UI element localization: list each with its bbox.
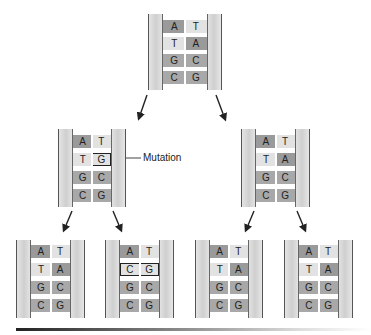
arrow-parent-right bbox=[216, 95, 225, 119]
base-pair: GC bbox=[210, 281, 248, 294]
backbone-left bbox=[58, 129, 73, 207]
arrow-g1l-right bbox=[113, 211, 121, 230]
base-pair: CG bbox=[210, 299, 248, 312]
base-pair: AT bbox=[256, 135, 295, 148]
arrow-g1l-left bbox=[64, 211, 72, 230]
dna-gen2-2: AT CG GC CG bbox=[105, 240, 174, 318]
arrow-g1r-right bbox=[297, 211, 305, 230]
dna-gen2-3: AT TA GC CG bbox=[195, 240, 263, 318]
base-pair: GC bbox=[256, 171, 295, 184]
base-pair: AT bbox=[31, 245, 70, 258]
arrow-g1r-left bbox=[246, 211, 254, 230]
base-pair: GC bbox=[163, 54, 207, 67]
base-pair: GC bbox=[73, 171, 111, 184]
base-pair: AT bbox=[299, 245, 338, 258]
dna-gen1-right: AT TA GC CG bbox=[241, 129, 310, 207]
arrow-parent-left bbox=[139, 95, 147, 118]
base-pair: CG bbox=[299, 299, 338, 312]
backbone-right bbox=[295, 129, 310, 207]
base-pair: GC bbox=[31, 281, 70, 294]
backbone-right bbox=[111, 129, 126, 207]
base-pair: CG bbox=[31, 299, 70, 312]
base-pair: AT bbox=[73, 135, 111, 148]
base-pair: CG bbox=[163, 71, 207, 84]
base-pair: CG bbox=[256, 189, 295, 202]
base-pair: GC bbox=[120, 281, 159, 294]
backbone-left bbox=[241, 129, 256, 207]
dna-parent: AT TA GC CG bbox=[148, 14, 222, 90]
base-pair: AT bbox=[120, 245, 159, 258]
base-pair: AT bbox=[210, 245, 248, 258]
mutation-label: Mutation bbox=[143, 152, 181, 163]
base-pair: CG bbox=[73, 189, 111, 202]
dna-gen2-1: AT TA GC CG bbox=[16, 240, 85, 318]
base-pair: TA bbox=[210, 263, 248, 276]
bottom-divider bbox=[16, 328, 371, 331]
base-pair: TA bbox=[299, 263, 338, 276]
base-pair: CG bbox=[120, 299, 159, 312]
backbone-left bbox=[148, 14, 163, 90]
base-pair: TA bbox=[31, 263, 70, 276]
base-pair-mutated: CG bbox=[120, 263, 159, 276]
base-pair: GC bbox=[299, 281, 338, 294]
dna-gen1-left: AT TG GC CG bbox=[58, 129, 126, 207]
dna-gen2-4: AT TA GC CG bbox=[284, 240, 353, 318]
base-pair: TA bbox=[163, 37, 207, 50]
base-pair: TA bbox=[256, 153, 295, 166]
backbone-right bbox=[207, 14, 222, 90]
base-pair: AT bbox=[163, 20, 207, 33]
base-pair-mutated: TG bbox=[73, 153, 111, 166]
